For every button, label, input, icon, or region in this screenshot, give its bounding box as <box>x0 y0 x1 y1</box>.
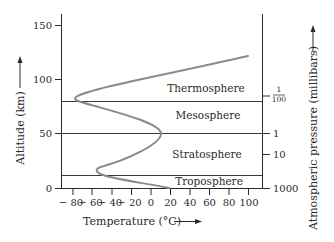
x-axis-title: Temperature (°C) <box>83 215 202 228</box>
svg-text:Temperature (°C): Temperature (°C) <box>83 215 181 228</box>
x-tick-label: − 20 <box>117 197 141 208</box>
arrowhead-icon <box>18 56 23 63</box>
y2-axis-title: Atmospheric pressure (millibars) <box>307 25 320 231</box>
x-tick-label: 0 <box>148 197 154 208</box>
svg-text:Altitude (km): Altitude (km) <box>14 91 27 166</box>
y-tick-label: 0 <box>46 183 52 194</box>
svg-text:Atmospheric pressure (millibar: Atmospheric pressure (millibars) <box>307 46 320 231</box>
y-tick-label: 100 <box>33 74 52 85</box>
y-tick-label: 150 <box>33 20 52 31</box>
layer-label-stratosphere: Stratosphere <box>172 148 242 160</box>
y2-tick-label: 10 <box>273 149 286 160</box>
x-tick-label: 40 <box>184 197 197 208</box>
layer-label-mesosphere: Mesosphere <box>176 109 241 121</box>
y-axis-title: Altitude (km) <box>14 56 27 166</box>
layer-label-troposphere: Troposphere <box>175 175 243 187</box>
x-tick-label: 20 <box>164 197 177 208</box>
x-tick-label: 100 <box>239 197 258 208</box>
pressure-frac-den: 100 <box>272 95 287 104</box>
pressure-frac-num: 1 <box>277 85 282 94</box>
x-tick-label: 60 <box>203 197 216 208</box>
temperature-curve <box>75 56 248 188</box>
x-tick-label: 80 <box>223 197 236 208</box>
x-ticks: − 80 − 60 − 40 − 20 0 20 40 60 80 100 <box>59 189 259 209</box>
y2-ticks: 1 100 1 10 1000 <box>263 85 299 194</box>
atmosphere-temperature-chart: 150 100 50 0 − 80 − 60 − 40 − 20 0 20 40… <box>0 0 334 242</box>
y-ticks: 150 100 50 0 <box>33 20 62 194</box>
y-tick-label: 50 <box>39 128 52 139</box>
layer-label-thermosphere: Thermosphere <box>167 82 245 94</box>
y2-tick-label: 1 <box>273 128 279 139</box>
arrowhead-icon <box>311 25 316 32</box>
arrowhead-icon <box>195 219 202 224</box>
y2-tick-label: 1000 <box>273 183 298 194</box>
